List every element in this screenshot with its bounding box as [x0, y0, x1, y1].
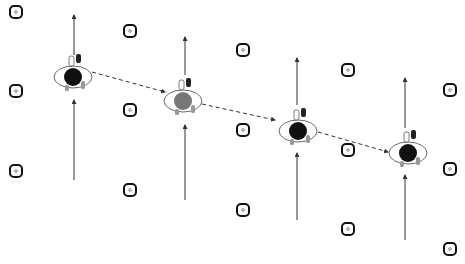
cone-markers — [10, 6, 456, 255]
player-icon — [389, 130, 427, 167]
marker-icon — [10, 6, 22, 18]
marker-icon — [444, 163, 456, 175]
marker-icon — [10, 85, 22, 97]
marker-icon — [124, 184, 136, 196]
marker-icon — [10, 165, 22, 177]
marker-icon — [342, 223, 354, 235]
marker-icon — [237, 124, 249, 136]
player-icon — [54, 54, 92, 91]
marker-icon — [342, 64, 354, 76]
players — [54, 54, 427, 167]
marker-icon — [124, 25, 136, 37]
player-icon — [279, 108, 317, 145]
marker-icon — [342, 144, 354, 156]
diagram-canvas — [0, 0, 465, 264]
marker-icon — [237, 204, 249, 216]
dashed-arrow — [92, 72, 165, 92]
marker-icon — [444, 84, 456, 96]
player-icon — [164, 78, 202, 115]
dashed-arrow — [202, 104, 275, 120]
marker-icon — [444, 243, 456, 255]
marker-icon — [237, 44, 249, 56]
marker-icon — [124, 104, 136, 116]
